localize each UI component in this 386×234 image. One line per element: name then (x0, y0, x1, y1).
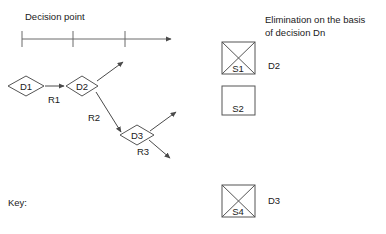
key-title: Key: (8, 196, 147, 209)
annotation-s1-decision: D2 (268, 60, 280, 72)
elimination-header-line1: Elimination on the basis (265, 13, 365, 26)
edge-label-r2: R2 (88, 112, 100, 123)
elimination-header-line2: of decision Dn (265, 26, 325, 39)
decision-node-label: D1 (20, 81, 32, 92)
solution-box-s1[interactable]: S1 (222, 42, 255, 74)
diagram-canvas: D1 D2 D3 S1 S2 S4 Decision point E (0, 0, 386, 234)
edge-label-r1: R1 (48, 94, 60, 105)
solution-box-label: S4 (232, 206, 244, 217)
flow-edges (45, 62, 176, 158)
edge-d3-down (149, 140, 170, 158)
decision-node-d1[interactable]: D1 (8, 76, 44, 96)
key-legend: Key: S1 = Solution Concept 1,...4 D1 = D… (8, 170, 147, 234)
decision-node-label: D2 (76, 81, 88, 92)
timeline-axis (22, 31, 171, 47)
edge-label-r3: R3 (137, 146, 149, 157)
annotation-s4-decision: D3 (268, 195, 280, 207)
decision-node-d2[interactable]: D2 (66, 76, 98, 96)
decision-node-label: D3 (131, 130, 143, 141)
edge-d2-up (97, 62, 123, 81)
solution-box-label: S2 (232, 103, 244, 114)
solution-box-s2[interactable]: S2 (222, 86, 255, 115)
edge-d3-up (150, 112, 176, 131)
solution-box-s4[interactable]: S4 (222, 185, 255, 217)
solution-box-label: S1 (232, 63, 244, 74)
decision-node-d3[interactable]: D3 (120, 125, 154, 145)
timeline-title: Decision point (25, 11, 85, 23)
